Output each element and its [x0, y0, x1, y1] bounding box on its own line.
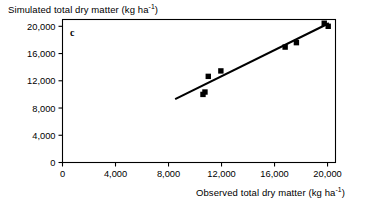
x-axis-ticks [63, 163, 328, 167]
plot-canvas: 04,0008,00012,00016,00020,000 04,0008,00… [0, 0, 366, 206]
x-tick-label: 20,000 [313, 169, 341, 179]
x-tick-label: 12,000 [207, 169, 235, 179]
x-axis-tick-labels: 04,0008,00012,00016,00020,000 [60, 169, 342, 179]
x-tick-label: 16,000 [260, 169, 288, 179]
data-point [218, 68, 223, 73]
data-point [206, 74, 211, 79]
y-tick-label: 16,000 [27, 49, 55, 59]
data-point [326, 24, 331, 29]
y-tick-label: 0 [50, 158, 55, 168]
data-point [294, 40, 299, 45]
regression-line-group [175, 23, 329, 99]
y-tick-label: 4,000 [32, 131, 55, 141]
y-axis-tick-labels: 04,0008,00012,00016,00020,000 [27, 22, 55, 168]
x-tick-label: 0 [60, 169, 65, 179]
x-tick-label: 8,000 [157, 169, 180, 179]
data-point [282, 44, 287, 49]
scatter-plot-figure: Simulated total dry matter (kg ha-1) Obs… [0, 0, 366, 206]
y-tick-label: 20,000 [27, 22, 55, 32]
data-point [202, 89, 207, 94]
y-tick-label: 8,000 [32, 104, 55, 114]
y-tick-label: 12,000 [27, 76, 55, 86]
y-axis-ticks [59, 26, 63, 162]
x-tick-label: 4,000 [104, 169, 127, 179]
regression-line [175, 23, 329, 99]
